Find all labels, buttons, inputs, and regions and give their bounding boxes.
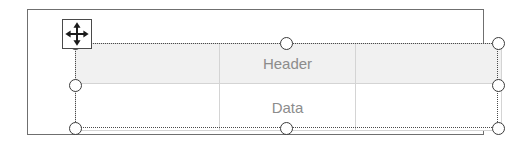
handle-top-center[interactable] [280,37,293,50]
table-cell-header-1[interactable] [76,44,220,84]
slide-frame: Header Data [27,9,484,135]
handle-middle-right[interactable] [492,79,505,92]
move-cursor-icon[interactable] [62,19,92,49]
handle-bottom-left[interactable] [69,122,82,135]
table-cell-data-1[interactable] [76,84,220,131]
table-row[interactable]: Header [76,44,502,84]
handle-top-right[interactable] [492,37,505,50]
table-object[interactable]: Header Data [75,43,498,128]
table-cell-data-3[interactable] [356,84,502,131]
table-grid[interactable]: Header Data [75,43,502,131]
table-cell-header-2[interactable]: Header [220,44,356,84]
handle-middle-left[interactable] [69,79,82,92]
handle-bottom-center[interactable] [280,122,293,135]
handle-bottom-right[interactable] [492,122,505,135]
screenshot-canvas: Header Data [0,0,511,143]
table-cell-header-3[interactable] [356,44,502,84]
